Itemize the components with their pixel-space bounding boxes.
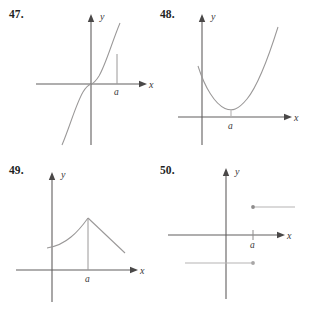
graph-47: y x a bbox=[0, 0, 157, 156]
exercise-panel-49: 49. y x a bbox=[0, 156, 157, 312]
point-label-a: a bbox=[250, 240, 255, 250]
y-axis-arrowhead-icon bbox=[223, 168, 229, 176]
y-axis-arrowhead-icon bbox=[199, 14, 205, 22]
x-axis-label: x bbox=[139, 265, 145, 276]
graph-49: y x a bbox=[0, 156, 157, 312]
function-curve-left bbox=[47, 218, 88, 248]
x-axis-label: x bbox=[148, 79, 154, 90]
closed-endpoint-dot-upper bbox=[251, 205, 255, 209]
x-axis-label: x bbox=[293, 112, 299, 123]
point-label-a: a bbox=[114, 87, 119, 97]
x-axis-arrowhead-icon bbox=[130, 267, 138, 273]
y-axis-label: y bbox=[99, 11, 105, 22]
exercise-panel-50: 50. y x a bbox=[157, 156, 314, 312]
y-axis-arrowhead-icon bbox=[49, 172, 55, 180]
point-label-a: a bbox=[85, 274, 90, 284]
x-axis-arrowhead-icon bbox=[139, 81, 147, 87]
x-axis-arrowhead-icon bbox=[284, 114, 292, 120]
exercise-panel-48: 48. y x a bbox=[157, 0, 314, 156]
y-axis-arrowhead-icon bbox=[88, 14, 94, 22]
function-curve bbox=[198, 27, 278, 110]
y-axis-label: y bbox=[234, 166, 240, 177]
exercise-panel-47: 47. y x a bbox=[0, 0, 157, 156]
point-label-a: a bbox=[228, 121, 233, 131]
y-axis-label: y bbox=[210, 11, 216, 22]
exercise-figure-sheet: 47. y x a 48. bbox=[0, 0, 315, 313]
graph-48: y x a bbox=[157, 0, 314, 156]
graph-50: y x a bbox=[157, 156, 314, 312]
closed-endpoint-dot-lower bbox=[251, 261, 255, 265]
x-axis-arrowhead-icon bbox=[277, 232, 285, 238]
x-axis-label: x bbox=[286, 230, 292, 241]
function-curve-right bbox=[88, 218, 125, 253]
y-axis-label: y bbox=[60, 169, 66, 180]
